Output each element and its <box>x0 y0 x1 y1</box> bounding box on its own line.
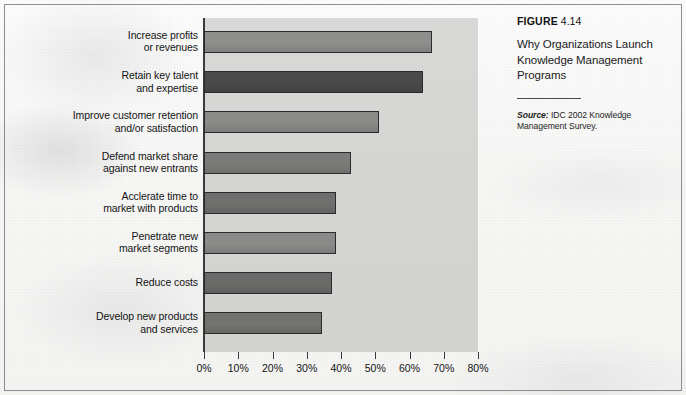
x-tick-mark <box>238 352 239 359</box>
category-label: Improve customer retentionand/or satisfa… <box>2 109 198 134</box>
category-label-line: market with products <box>2 202 198 215</box>
category-axis-labels: Increase profitsor revenuesRetain key ta… <box>0 0 198 370</box>
source-label: Source: <box>517 110 549 120</box>
bar <box>204 312 322 334</box>
x-tick-mark <box>204 352 205 359</box>
category-label: Acclerate time tomarket with products <box>2 190 198 215</box>
x-tick-mark <box>410 352 411 359</box>
category-label-line: Retain key talent <box>2 69 198 82</box>
category-label-line: against new entrants <box>2 162 198 175</box>
category-label-line: or revenues <box>2 41 198 54</box>
figure-title: Why Organizations Launch Knowledge Manag… <box>517 37 669 84</box>
category-label: Retain key talentand expertise <box>2 69 198 94</box>
x-tick-mark <box>375 352 376 359</box>
category-label-line: Reduce costs <box>2 276 198 289</box>
figure-number-value: 4.14 <box>561 15 581 27</box>
figure-caption: FIGURE 4.14 Why Organizations Launch Kno… <box>517 14 669 133</box>
category-label-line: Develop new products <box>2 310 198 323</box>
bar <box>204 152 351 174</box>
x-tick-mark <box>273 352 274 359</box>
source-note: Source: IDC 2002 Knowledge Management Su… <box>517 110 669 133</box>
figure-label: FIGURE <box>517 15 558 27</box>
category-label-line: and services <box>2 323 198 336</box>
category-label: Increase profitsor revenues <box>2 29 198 54</box>
x-tick-mark <box>341 352 342 359</box>
category-label-line: market segments <box>2 242 198 255</box>
category-label-line: Penetrate new <box>2 230 198 243</box>
category-label-line: Defend market share <box>2 150 198 163</box>
x-axis: 0%10%20%30%40%50%60%70%80% <box>0 352 686 382</box>
x-tick-mark <box>307 352 308 359</box>
x-tick-label: 80% <box>458 362 498 374</box>
category-label-line: Acclerate time to <box>2 190 198 203</box>
chart-plot-area <box>204 18 478 352</box>
category-label: Defend market shareagainst new entrants <box>2 150 198 175</box>
bar <box>204 31 432 53</box>
category-label-line: Improve customer retention <box>2 109 198 122</box>
y-axis-line <box>203 18 205 352</box>
caption-divider <box>517 98 581 99</box>
category-label: Reduce costs <box>2 276 198 289</box>
category-label: Penetrate newmarket segments <box>2 230 198 255</box>
bar <box>204 272 332 294</box>
x-tick-mark <box>444 352 445 359</box>
bar <box>204 232 336 254</box>
bar <box>204 192 336 214</box>
x-tick-mark <box>478 352 479 359</box>
category-label-line: Increase profits <box>2 29 198 42</box>
figure-number-line: FIGURE 4.14 <box>517 14 669 28</box>
bar <box>204 111 379 133</box>
category-label-line: and/or satisfaction <box>2 122 198 135</box>
category-label: Develop new productsand services <box>2 310 198 335</box>
category-label-line: and expertise <box>2 82 198 95</box>
bar <box>204 71 423 93</box>
